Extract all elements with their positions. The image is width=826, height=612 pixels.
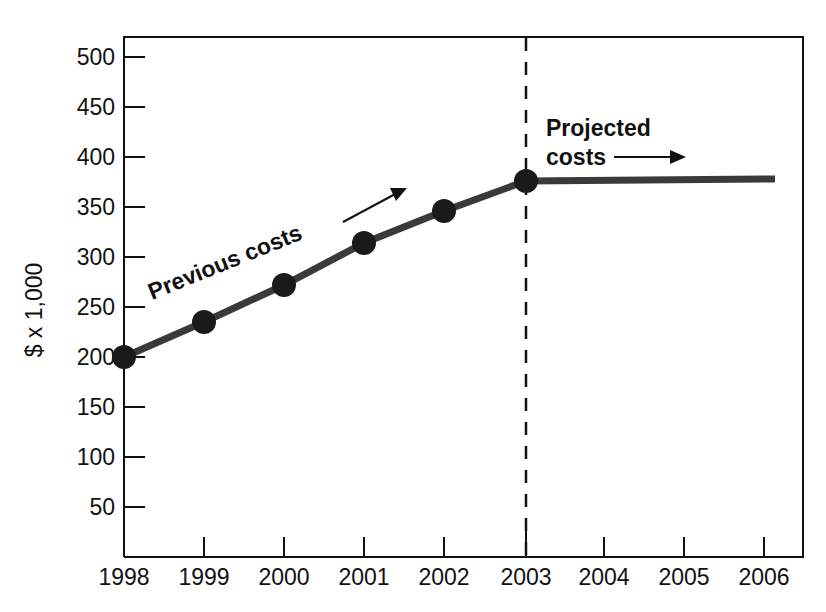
- y-tick-label: 300: [77, 244, 115, 270]
- projected-costs-label-line2: costs: [546, 144, 606, 170]
- x-tick-label: 1999: [178, 564, 229, 590]
- x-tick-label: 2001: [338, 564, 389, 590]
- projected-costs-arrow-icon: [614, 150, 686, 164]
- x-tick-label: 2004: [578, 564, 629, 590]
- y-axis-tick-labels: 500 450 400 350 300 250 200 150 100 50: [77, 44, 115, 520]
- data-point-marker: [352, 231, 376, 255]
- y-tick-label: 150: [77, 394, 115, 420]
- data-point-marker: [272, 273, 296, 297]
- y-tick-label: 450: [77, 94, 115, 120]
- chart-container: 500 450 400 350 300 250 200 150 100 50 $…: [0, 0, 826, 612]
- x-tick-label: 2006: [738, 564, 789, 590]
- data-point-marker: [432, 199, 456, 223]
- plot-frame: [124, 37, 803, 557]
- y-tick-label: 400: [77, 144, 115, 170]
- y-tick-label: 250: [77, 294, 115, 320]
- x-tick-label: 1998: [98, 564, 149, 590]
- y-axis-ticks: [124, 57, 145, 507]
- series-projected-costs: [526, 179, 775, 181]
- x-tick-label: 2002: [418, 564, 469, 590]
- data-point-marker: [192, 310, 216, 334]
- x-tick-label: 2005: [658, 564, 709, 590]
- y-tick-label: 50: [89, 494, 115, 520]
- y-tick-label: 500: [77, 44, 115, 70]
- y-axis-title-text: $ x 1,000: [21, 263, 47, 358]
- x-tick-label: 2000: [258, 564, 309, 590]
- projected-costs-annotation: Projected costs: [546, 115, 686, 170]
- projected-costs-label-line1: Projected: [546, 115, 651, 141]
- previous-costs-arrow-icon: [343, 188, 407, 222]
- y-tick-label: 350: [77, 194, 115, 220]
- line-chart: 500 450 400 350 300 250 200 150 100 50 $…: [0, 0, 826, 612]
- data-point-marker: [514, 169, 538, 193]
- data-point-marker: [112, 345, 136, 369]
- y-tick-label: 200: [77, 344, 115, 370]
- x-axis-tick-labels: 1998 1999 2000 2001 2002 2003 2004 2005 …: [98, 564, 789, 590]
- y-tick-label: 100: [77, 444, 115, 470]
- x-axis-ticks: [204, 527, 764, 557]
- y-axis-title: $ x 1,000: [21, 263, 47, 358]
- x-tick-label: 2003: [500, 564, 551, 590]
